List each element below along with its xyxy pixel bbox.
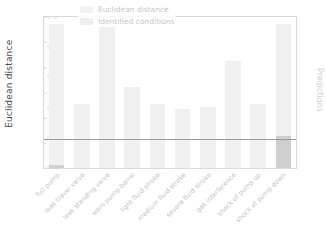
- y-axis-left-title: Euclidean distance: [2, 18, 16, 150]
- legend-item-identified-conditions: Identified conditions: [80, 17, 174, 26]
- threshold-line: [44, 139, 296, 140]
- bar-group-item: [150, 17, 166, 168]
- bar-euclidean-distance: [74, 104, 90, 168]
- x-axis-tick-labels: full pumpleak travel valveleak standing …: [43, 169, 297, 231]
- bar-group-item: [175, 17, 191, 168]
- bar-group-item: [276, 17, 292, 168]
- bar-group-item: [250, 17, 266, 168]
- legend-item-euclidean-distance: Euclidean distance: [80, 5, 174, 14]
- bar-euclidean-distance: [150, 104, 166, 168]
- legend-swatch-icon: [80, 18, 93, 25]
- bar-group-item: [200, 17, 216, 168]
- bar-euclidean-distance: [124, 87, 140, 168]
- chart-figure: Euclidean distance Predictions 3.02.52.0…: [0, 0, 326, 231]
- bar-euclidean-distance: [99, 24, 115, 168]
- bar-euclidean-distance: [49, 24, 65, 168]
- bar-euclidean-distance: [200, 107, 216, 168]
- bar-group-item: [74, 17, 90, 168]
- bar-group-item: [49, 17, 65, 168]
- y-axis-left-tick: 2.0: [43, 64, 44, 71]
- y-axis-left-tick: 1.0: [43, 114, 44, 121]
- y-axis-right-title: Predictions: [313, 30, 326, 150]
- chart-legend: Euclidean distance Identified conditions: [78, 4, 176, 27]
- legend-swatch-icon: [80, 6, 93, 13]
- bar-identified-condition: [49, 165, 65, 168]
- bar-group-item: [124, 17, 140, 168]
- bar-group-item: [99, 17, 115, 168]
- plot-area: 3.02.52.01.51.00.50.0 1.00.80.60.40.20.0: [43, 16, 297, 169]
- bar-identified-condition: [276, 136, 292, 168]
- legend-label: Euclidean distance: [98, 5, 169, 14]
- y-axis-left-tick: 1.5: [43, 89, 44, 96]
- bar-euclidean-distance: [225, 61, 241, 168]
- bar-group-item: [225, 17, 241, 168]
- legend-label: Identified conditions: [98, 17, 174, 26]
- bar-euclidean-distance: [250, 104, 266, 168]
